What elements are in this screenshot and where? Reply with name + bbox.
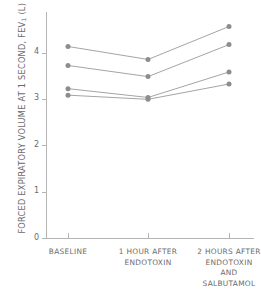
series-lines-group <box>68 27 229 100</box>
data-point <box>227 69 232 74</box>
data-point <box>66 93 71 98</box>
data-point <box>66 86 71 91</box>
data-point <box>146 97 151 102</box>
data-point <box>227 42 232 47</box>
data-point <box>146 57 151 62</box>
data-point <box>227 82 232 87</box>
data-point <box>227 24 232 29</box>
chart-figure: FORCED EXPIRATORY VOLUME AT 1 SECOND, FE… <box>0 0 261 298</box>
plot-area <box>0 0 261 298</box>
data-point <box>66 63 71 68</box>
data-point <box>66 44 71 49</box>
data-point <box>146 74 151 79</box>
